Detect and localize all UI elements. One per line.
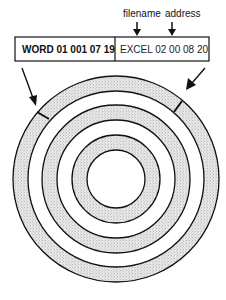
filename-label: filename (123, 8, 161, 19)
right-pointer-arrow-icon (186, 68, 205, 90)
address-label: address (165, 8, 201, 19)
disk-directory-diagram: filename address WORD 01 001 07 19 EXCEL… (0, 0, 226, 300)
filename-arrow-icon (133, 22, 141, 36)
entry-word: WORD 01 001 07 19 (22, 44, 115, 55)
disk-hub (87, 150, 145, 208)
left-pointer-arrow-icon (22, 68, 37, 106)
directory-entry-box: WORD 01 001 07 19 EXCEL 02 00 08 20 (15, 37, 209, 61)
disk (13, 76, 219, 282)
address-arrow-icon (168, 22, 176, 36)
entry-excel: EXCEL 02 00 08 20 (120, 44, 208, 55)
